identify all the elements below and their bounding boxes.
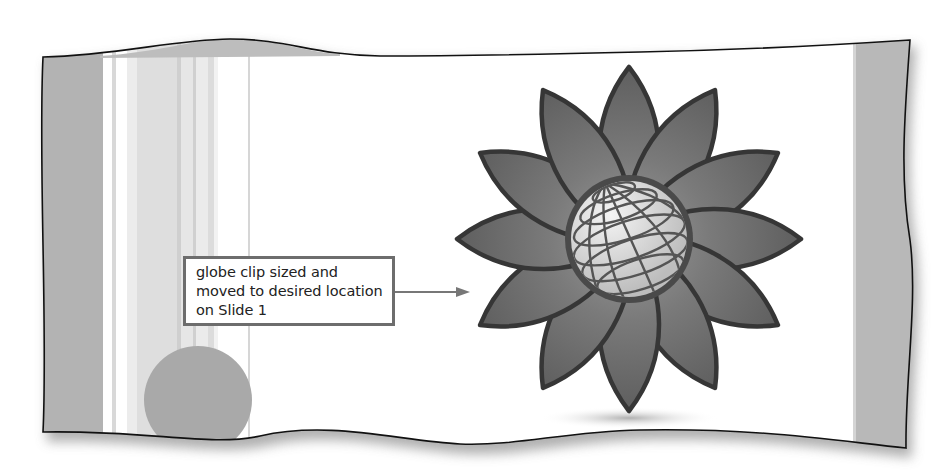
callout-line-2: moved to desired location bbox=[196, 282, 382, 301]
callout-line-1: globe clip sized and bbox=[196, 263, 382, 282]
slide-canvas bbox=[0, 0, 950, 472]
left-band bbox=[30, 0, 103, 472]
callout-box: globe clip sized and moved to desired lo… bbox=[183, 256, 395, 326]
slide-figure: globe clip sized and moved to desired lo… bbox=[0, 0, 950, 472]
right-band bbox=[855, 0, 950, 472]
callout-line-3: on Slide 1 bbox=[196, 301, 382, 320]
